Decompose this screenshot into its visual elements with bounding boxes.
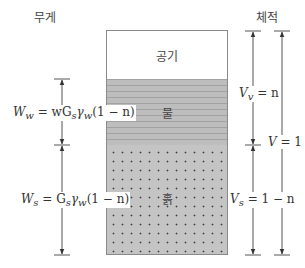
solids-volume-equation: Vs = 1 − n: [229, 192, 296, 208]
void-volume-equation: Vv = n: [238, 86, 280, 102]
dimension-arrows: [0, 0, 305, 268]
water-weight-equation: Ww = wGsγw(1 − n): [12, 105, 136, 121]
solids-weight-equation: Ws = Gsγw(1 − n): [20, 192, 130, 208]
total-volume-equation: V = 1: [267, 135, 303, 149]
